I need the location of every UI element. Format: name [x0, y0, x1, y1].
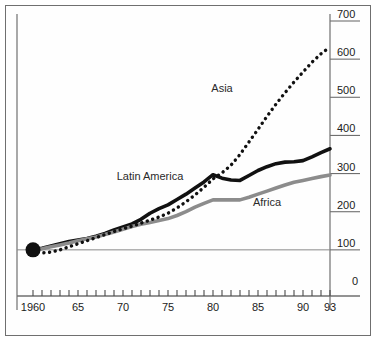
x-axis-tick-label: 93	[324, 301, 336, 313]
x-axis-tick-label: 90	[297, 301, 309, 313]
origin-marker-dot	[26, 242, 41, 257]
y-axis-tick-label: 500	[337, 84, 367, 96]
y-axis-tick-label: 400	[337, 122, 367, 134]
x-axis-tick-label: 75	[162, 301, 174, 313]
series-line-asia	[33, 47, 330, 253]
line-chart	[0, 0, 378, 343]
series-line-latin-america	[33, 149, 330, 250]
x-axis-tick-label: 85	[252, 301, 264, 313]
y-axis-tick-label: 200	[337, 199, 367, 211]
y-axis-tick-label: 100	[337, 237, 367, 249]
y-axis-tick-label: 600	[337, 46, 367, 58]
y-axis-tick-label: 700	[337, 8, 367, 20]
series-label-asia: Asia	[211, 82, 232, 94]
y-axis-tick-label: 300	[337, 161, 367, 173]
series-label-africa: Africa	[253, 196, 281, 208]
x-axis-tick-label: 70	[117, 301, 129, 313]
x-axis-tick-label: 80	[207, 301, 219, 313]
x-axis-tick-label: 1960	[21, 301, 45, 313]
y-axis-tick-label: 0	[330, 275, 358, 287]
chart-page: 0100200300400500600700196065707580859093…	[0, 0, 378, 343]
series-label-latin-america: Latin America	[117, 170, 184, 182]
x-axis-tick-label: 65	[72, 301, 84, 313]
